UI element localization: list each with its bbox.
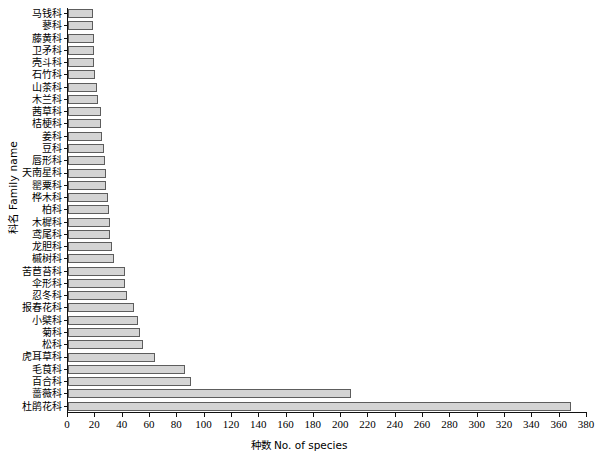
bar bbox=[68, 242, 112, 251]
y-axis-tick bbox=[64, 160, 68, 161]
bar bbox=[68, 316, 138, 325]
x-axis-tick bbox=[149, 412, 150, 417]
bar bbox=[68, 353, 155, 362]
y-axis-tick bbox=[64, 369, 68, 370]
bar bbox=[68, 46, 94, 55]
x-axis-title: 种数 No. of species bbox=[0, 437, 598, 452]
x-axis-tick bbox=[449, 412, 450, 417]
y-axis-tick bbox=[64, 173, 68, 174]
y-axis-tick bbox=[64, 148, 68, 149]
y-axis-label: 木樨科 bbox=[0, 217, 65, 228]
y-axis-tick bbox=[64, 393, 68, 394]
bar-row bbox=[68, 45, 587, 56]
plot-area bbox=[67, 8, 587, 412]
y-axis-label: 山茶科 bbox=[0, 82, 65, 93]
bar-row bbox=[68, 118, 587, 129]
species-by-family-bar-chart: 科名 Family name 马钱科蓼科藤黄科卫矛科壳斗科石竹科山茶科木兰科茜草… bbox=[0, 0, 598, 459]
y-axis-tick bbox=[64, 344, 68, 345]
bar bbox=[68, 377, 191, 386]
bar bbox=[68, 21, 93, 30]
x-axis-tick-label: 340 bbox=[523, 418, 540, 430]
bar bbox=[68, 144, 104, 153]
y-axis-tick bbox=[64, 295, 68, 296]
bar bbox=[68, 132, 102, 141]
x-axis-tick bbox=[94, 412, 95, 417]
x-axis-tick bbox=[477, 412, 478, 417]
x-axis-tick-label: 140 bbox=[250, 418, 267, 430]
y-axis-tick bbox=[64, 13, 68, 14]
bar bbox=[68, 95, 98, 104]
y-axis-tick bbox=[64, 307, 68, 308]
y-axis-label: 唇形科 bbox=[0, 155, 65, 166]
bar-row bbox=[68, 315, 587, 326]
y-axis-tick bbox=[64, 209, 68, 210]
bar bbox=[68, 107, 101, 116]
bar-row bbox=[68, 217, 587, 228]
bar-row bbox=[68, 339, 587, 350]
y-axis-tick bbox=[64, 197, 68, 198]
bar-row bbox=[68, 401, 587, 412]
bar bbox=[68, 389, 351, 398]
bar-row bbox=[68, 131, 587, 142]
bar-row bbox=[68, 94, 587, 105]
y-axis-tick bbox=[64, 222, 68, 223]
y-axis-label: 报春花科 bbox=[0, 302, 65, 313]
bar-row bbox=[68, 253, 587, 264]
y-axis-label: 龙胆科 bbox=[0, 241, 65, 252]
bar bbox=[68, 205, 109, 214]
bar bbox=[68, 193, 108, 202]
y-axis-tick bbox=[64, 357, 68, 358]
bar-row bbox=[68, 57, 587, 68]
bar-rows bbox=[68, 8, 587, 412]
y-axis-tick bbox=[64, 258, 68, 259]
y-axis-label: 马钱科 bbox=[0, 8, 65, 19]
y-axis-tick bbox=[64, 381, 68, 382]
bar bbox=[68, 402, 571, 411]
y-axis-label: 百合科 bbox=[0, 376, 65, 387]
y-axis-tick bbox=[64, 271, 68, 272]
y-axis-tick bbox=[64, 74, 68, 75]
bar bbox=[68, 291, 127, 300]
x-axis-tick-label: 180 bbox=[305, 418, 322, 430]
bar bbox=[68, 340, 143, 349]
y-axis-tick bbox=[64, 406, 68, 407]
x-axis-tick-label: 200 bbox=[332, 418, 349, 430]
y-axis-label: 虎耳草科 bbox=[0, 351, 65, 362]
bar bbox=[68, 169, 106, 178]
x-axis-tick-label: 20 bbox=[89, 418, 100, 430]
y-axis-tick bbox=[64, 99, 68, 100]
bar-row bbox=[68, 266, 587, 277]
x-axis-tick-label: 260 bbox=[414, 418, 431, 430]
y-axis-label: 壳斗科 bbox=[0, 57, 65, 68]
bar-row bbox=[68, 106, 587, 117]
x-axis-tick-label: 240 bbox=[387, 418, 404, 430]
y-axis-tick bbox=[64, 332, 68, 333]
bar bbox=[68, 34, 94, 43]
bar bbox=[68, 218, 110, 227]
x-axis-tick bbox=[286, 412, 287, 417]
y-axis-label: 槭树科 bbox=[0, 253, 65, 264]
x-axis-tick bbox=[559, 412, 560, 417]
bar bbox=[68, 181, 106, 190]
y-axis-label: 木兰科 bbox=[0, 94, 65, 105]
bar-row bbox=[68, 180, 587, 191]
x-axis-tick bbox=[258, 412, 259, 417]
x-axis-tick bbox=[340, 412, 341, 417]
y-axis-tick bbox=[64, 320, 68, 321]
y-axis-label: 菊科 bbox=[0, 327, 65, 338]
y-axis-category-labels: 马钱科蓼科藤黄科卫矛科壳斗科石竹科山茶科木兰科茜草科桔梗科姜科豆科唇形科天南星科… bbox=[0, 8, 65, 412]
y-axis-label: 毛茛科 bbox=[0, 364, 65, 375]
bar-row bbox=[68, 204, 587, 215]
x-axis-tick bbox=[231, 412, 232, 417]
x-axis-tick bbox=[367, 412, 368, 417]
y-axis-label: 卫矛科 bbox=[0, 45, 65, 56]
x-axis-tick-label: 360 bbox=[550, 418, 567, 430]
x-axis-tick bbox=[395, 412, 396, 417]
x-axis-tick bbox=[586, 412, 587, 417]
bar-row bbox=[68, 376, 587, 387]
x-axis-tick-label: 120 bbox=[223, 418, 240, 430]
x-axis-tick bbox=[176, 412, 177, 417]
y-axis-tick bbox=[64, 62, 68, 63]
y-axis-label: 豆科 bbox=[0, 143, 65, 154]
x-axis-tick bbox=[422, 412, 423, 417]
